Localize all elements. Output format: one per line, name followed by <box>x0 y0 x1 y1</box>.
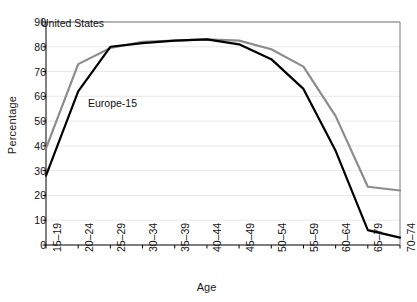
x-axis-title-text: Age <box>197 281 217 293</box>
x-tick-label: 65–79 <box>372 223 384 252</box>
x-tick-label: 25–29 <box>115 223 127 252</box>
x-tick-label: 70–74 <box>405 223 417 252</box>
series-label-europe-15: Europe-15 <box>88 97 137 109</box>
x-tick-label: 15–19 <box>51 223 63 252</box>
x-tick-label: 60–64 <box>340 223 352 252</box>
x-tick-label: 40–44 <box>211 223 223 252</box>
x-tick-label: 55–59 <box>308 223 320 252</box>
x-tick-label: 30–34 <box>147 223 159 252</box>
series-label-united-states: United States <box>41 17 104 29</box>
x-axis-title: Age <box>0 281 413 293</box>
x-tick-label: 35–39 <box>179 223 191 252</box>
x-tick-label: 50–54 <box>276 223 288 252</box>
x-tick-label: 45–49 <box>244 223 256 252</box>
x-tick-label: 20–24 <box>83 223 95 252</box>
